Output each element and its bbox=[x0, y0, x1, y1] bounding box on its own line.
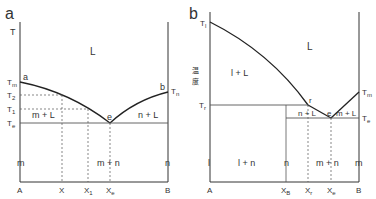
panel-b-y-axis-char2: 度 bbox=[192, 77, 199, 86]
panel-a-region-mL: m + L bbox=[32, 110, 55, 120]
panel-b-letter: b bbox=[189, 5, 198, 22]
panel-a-phase-n: n bbox=[165, 158, 170, 168]
panel-a-Tn-label: Tn bbox=[171, 87, 179, 97]
panel-b-region-ln: l + n bbox=[238, 158, 255, 168]
panel-b-x-Xr: Xr bbox=[305, 186, 312, 196]
panel-a-point-e: e bbox=[107, 112, 112, 122]
panel-a-x-A: A bbox=[17, 186, 23, 195]
panel-b-phase-m: m bbox=[355, 158, 363, 168]
panel-b-region-L: L bbox=[307, 41, 313, 52]
panel-a-phase-m: m bbox=[17, 158, 25, 168]
panel-b-liquidus-left bbox=[210, 22, 308, 105]
panel-b-x-A: A bbox=[207, 186, 213, 195]
panel-b-y-axis-char1: 温 bbox=[192, 66, 199, 75]
panel-a-point-a: a bbox=[23, 72, 28, 82]
panel-a-x-X: X bbox=[59, 186, 65, 195]
panel-a: a T L m + L n + L m + n m n a b e Tm T2 … bbox=[5, 5, 179, 196]
panel-b-phase-n: n bbox=[284, 158, 289, 168]
panel-b-x-XB: XB bbox=[281, 186, 290, 196]
panel-b-region-nL: n + L bbox=[298, 109, 317, 118]
panel-b-x-B: B bbox=[356, 186, 361, 195]
panel-b-region-mL: m + L bbox=[336, 109, 357, 118]
panel-a-region-mn: m + n bbox=[97, 158, 120, 168]
panel-a-Te-label: Te bbox=[7, 119, 16, 129]
panel-b-region-lL: l + L bbox=[231, 68, 248, 78]
panel-a-Tm-label: Tm bbox=[7, 78, 17, 88]
panel-a-letter: a bbox=[5, 5, 14, 22]
panel-b: b 温 度 L l + L n + L m + L l + n m + n l … bbox=[189, 5, 372, 196]
panel-a-y-axis-label: T bbox=[10, 27, 16, 37]
panel-b-point-e: e bbox=[327, 109, 332, 118]
diagram-canvas: a T L m + L n + L m + n m n a b e Tm T2 … bbox=[0, 0, 376, 199]
panel-a-T2-label: T2 bbox=[7, 91, 16, 101]
panel-b-x-Xe: Xe bbox=[327, 186, 336, 196]
panel-a-point-b: b bbox=[160, 82, 165, 92]
panel-b-Tl-label: Tl bbox=[200, 19, 206, 29]
panel-b-region-mn: m + n bbox=[316, 158, 339, 168]
panel-b-point-r: r bbox=[309, 96, 312, 105]
panel-b-phase-l: l bbox=[208, 158, 210, 168]
panel-a-region-nL: n + L bbox=[138, 110, 158, 120]
panel-b-Te-label: Te bbox=[362, 114, 371, 124]
panel-b-Tm-label: Tm bbox=[362, 88, 372, 98]
panel-a-x-B: B bbox=[165, 186, 170, 195]
panel-a-region-L: L bbox=[90, 46, 96, 57]
panel-a-x-X1: X1 bbox=[84, 186, 93, 196]
panel-b-Tr-label: Tr bbox=[199, 101, 206, 111]
phase-diagram-figure: a T L m + L n + L m + n m n a b e Tm T2 … bbox=[0, 0, 376, 199]
panel-a-T1-label: T1 bbox=[7, 105, 16, 115]
panel-a-x-Xe: Xe bbox=[106, 186, 115, 196]
